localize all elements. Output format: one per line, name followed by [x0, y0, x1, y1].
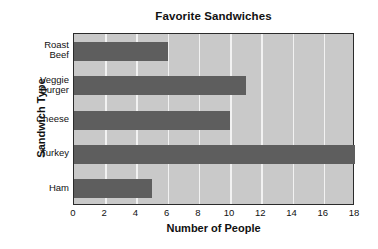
y-tick-label-cheese: Cheese [18, 114, 69, 124]
chart-title: Favorite Sandwiches [73, 10, 354, 22]
y-tick-label-line: Beef [18, 50, 69, 60]
bar-roast-beef [74, 42, 168, 61]
gridline-12 [261, 34, 263, 204]
x-tick-label-16: 16 [311, 207, 335, 218]
x-tick-label-4: 4 [123, 207, 147, 218]
x-axis-tick-labels: 024681012141618 [73, 207, 354, 221]
x-tick-label-6: 6 [155, 207, 179, 218]
y-tick-label-line: Turkey [18, 148, 69, 158]
gridline-10 [230, 34, 232, 204]
x-tick-label-12: 12 [248, 207, 272, 218]
bar-ham [74, 179, 152, 198]
x-tick-label-2: 2 [92, 207, 116, 218]
bar-cheese [74, 111, 230, 130]
plot-inner [74, 34, 353, 204]
y-tick-label-turkey: Turkey [18, 148, 69, 158]
x-tick-label-18: 18 [342, 207, 366, 218]
bar-turkey [74, 145, 355, 164]
y-tick-label-line: Burger [18, 85, 69, 95]
y-tick-label-line: Cheese [18, 114, 69, 124]
gridline-16 [324, 34, 326, 204]
x-tick-label-14: 14 [280, 207, 304, 218]
bar-veggie-burger [74, 76, 246, 95]
bar-chart: Favorite Sandwiches Sandwich Type RoastB… [0, 0, 378, 249]
gridline-14 [293, 34, 295, 204]
x-tick-label-0: 0 [61, 207, 85, 218]
x-tick-label-8: 8 [186, 207, 210, 218]
x-tick-label-10: 10 [217, 207, 241, 218]
y-axis-tick-labels: RoastBeefVeggieBurgerCheeseTurkeyHam [18, 33, 69, 205]
x-axis-title: Number of People [73, 222, 354, 234]
y-tick-label-ham: Ham [18, 183, 69, 193]
y-tick-label-veggie-burger: VeggieBurger [18, 75, 69, 95]
y-tick-label-roast-beef: RoastBeef [18, 40, 69, 60]
y-tick-label-line: Ham [18, 183, 69, 193]
plot-area [73, 33, 354, 205]
